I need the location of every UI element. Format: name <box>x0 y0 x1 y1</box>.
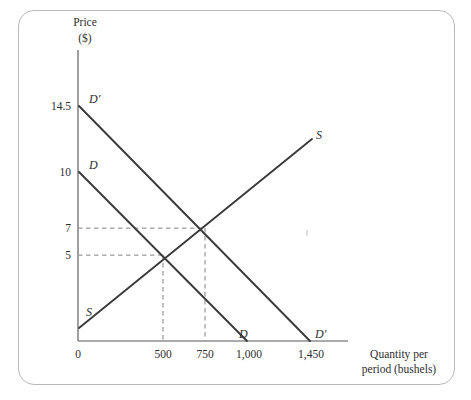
x-tick-500: 500 <box>154 348 172 360</box>
supply-curve-s <box>79 139 312 328</box>
demand-curve-d-prime <box>79 106 310 341</box>
y-tick-10: 10 <box>60 166 72 178</box>
curve-label-d-origin: D <box>88 158 98 172</box>
curve-label-s-end: S <box>316 128 322 142</box>
y-axis-title-line2: ($) <box>78 32 92 45</box>
print-speck <box>306 230 308 236</box>
y-tick-5: 5 <box>65 249 71 261</box>
demand-curve-d <box>79 172 247 341</box>
curve-label-d-prime-end: D′ <box>314 327 327 341</box>
x-tick-1450: 1,450 <box>298 348 324 361</box>
supply-demand-figure: 14.5 10 7 5 0 500 750 1,000 1,450 Price … <box>0 0 471 400</box>
chart-canvas: 14.5 10 7 5 0 500 750 1,000 1,450 Price … <box>0 0 471 400</box>
x-tick-750: 750 <box>196 348 214 360</box>
curve-label-d-prime-origin: D′ <box>88 92 101 106</box>
x-tick-0: 0 <box>75 348 81 360</box>
x-axis-title-line2: period (bushels) <box>362 363 437 376</box>
curve-label-s-origin: S <box>86 305 92 319</box>
y-tick-7: 7 <box>65 222 71 234</box>
y-axis-title-line1: Price <box>73 16 97 28</box>
y-tick-14-5: 14.5 <box>51 100 71 112</box>
x-tick-1000: 1,000 <box>236 348 262 361</box>
curve-label-d-end: D <box>238 327 248 341</box>
x-axis-title-line1: Quantity per <box>370 348 428 361</box>
